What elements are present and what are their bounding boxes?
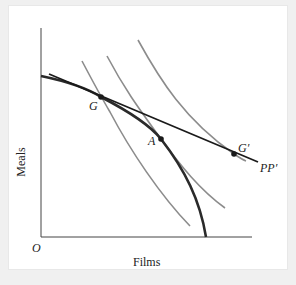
label-a: A	[147, 134, 156, 148]
indifference-curve-1	[82, 61, 190, 226]
y-axis-label: Meals	[14, 147, 28, 177]
label-g: G	[89, 99, 98, 113]
label-pp-prime: PP′	[259, 161, 278, 175]
point-a	[158, 136, 164, 142]
point-g-prime	[231, 151, 237, 157]
origin-label: O	[32, 241, 41, 255]
label-g-prime: G′	[238, 141, 250, 155]
price-line-pp-prime	[49, 74, 258, 162]
point-g	[98, 94, 104, 100]
trade-diagram: G A G′ PP′ O Films Meals	[0, 0, 296, 285]
production-possibility-frontier	[41, 76, 206, 237]
x-axis-label: Films	[133, 255, 161, 269]
